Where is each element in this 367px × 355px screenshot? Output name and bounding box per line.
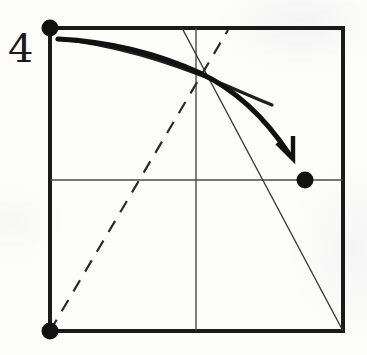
- point-right-midline: [297, 172, 314, 189]
- geometric-diagram-svg: [0, 0, 367, 355]
- point-origin: [42, 323, 59, 340]
- y-axis-value-label: 4: [8, 28, 33, 68]
- point-top-left-intercept: [42, 20, 59, 37]
- figure-canvas: 4: [0, 0, 367, 355]
